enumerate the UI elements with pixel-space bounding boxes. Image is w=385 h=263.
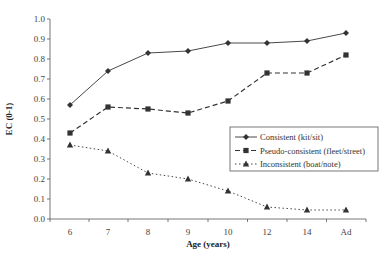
triangle-marker <box>145 170 151 176</box>
series-line <box>70 55 346 133</box>
series-line <box>70 33 346 105</box>
plot-series <box>67 30 349 212</box>
square-marker <box>343 52 348 57</box>
triangle-marker <box>67 142 73 148</box>
y-tick-label: 1.0 <box>34 14 46 24</box>
x-tick-label: 9 <box>186 227 191 237</box>
line-chart: 0.00.10.20.30.40.50.60.70.80.91.0 678910… <box>0 0 385 263</box>
diamond-marker <box>304 38 310 44</box>
square-marker <box>185 110 190 115</box>
diamond-marker <box>145 50 151 56</box>
diamond-marker <box>343 30 349 36</box>
y-tick-label: 0.9 <box>34 34 46 44</box>
y-tick-label: 0.0 <box>34 214 46 224</box>
legend: Consistent (kit/sit)Pseudo-consistent (f… <box>230 127 378 171</box>
y-tick-label: 0.2 <box>34 174 45 184</box>
square-marker <box>264 70 269 75</box>
x-axis-title: Age (years) <box>186 239 230 249</box>
triangle-marker <box>304 207 310 213</box>
legend-label: Pseudo-consistent (fleet/street) <box>260 146 365 156</box>
square-marker <box>67 130 72 135</box>
square-marker <box>105 104 110 109</box>
series-consistent <box>67 30 349 108</box>
y-tick-label: 0.6 <box>34 94 46 104</box>
y-axis-title: EC (0-1) <box>4 103 14 136</box>
x-axis: 6789101214Ad <box>50 219 366 237</box>
diamond-marker <box>225 40 231 46</box>
legend-label: Consistent (kit/sit) <box>260 132 323 142</box>
x-tick-label: 12 <box>263 227 272 237</box>
triangle-marker <box>264 204 270 210</box>
y-axis: 0.00.10.20.30.40.50.60.70.80.91.0 <box>34 14 50 224</box>
square-marker <box>145 106 150 111</box>
x-tick-label: 8 <box>146 227 151 237</box>
x-tick-label: Ad <box>341 227 352 237</box>
diamond-marker <box>264 40 270 46</box>
x-tick-label: 14 <box>303 227 313 237</box>
triangle-marker <box>185 176 191 182</box>
series-pseudo-consistent <box>67 52 348 135</box>
x-tick-label: 10 <box>224 227 234 237</box>
square-marker <box>225 98 230 103</box>
y-tick-label: 0.5 <box>34 114 46 124</box>
square-marker <box>243 148 248 153</box>
square-marker <box>304 70 309 75</box>
triangle-marker <box>343 207 349 213</box>
y-tick-label: 0.8 <box>34 54 46 64</box>
y-tick-label: 0.7 <box>34 74 46 84</box>
x-tick-label: 7 <box>106 227 111 237</box>
x-tick-label: 6 <box>68 227 73 237</box>
y-tick-label: 0.1 <box>34 194 45 204</box>
legend-label: Inconsistent (boat/note) <box>260 159 341 169</box>
y-tick-label: 0.4 <box>34 134 46 144</box>
y-tick-label: 0.3 <box>34 154 46 164</box>
diamond-marker <box>185 48 191 54</box>
